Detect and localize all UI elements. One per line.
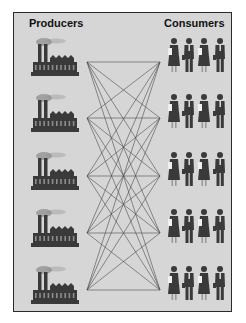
consumer-group-icon: [167, 93, 231, 133]
factory-icon: [24, 207, 84, 251]
factory-icon: [24, 264, 84, 308]
consumer-group-icon: [167, 208, 231, 248]
factory-icon: [24, 150, 84, 194]
consumer-group-icon: [167, 265, 231, 305]
consumer-group-icon: [167, 37, 231, 77]
factory-icon: [24, 36, 84, 80]
factory-icon: [24, 92, 84, 136]
consumer-group-icon: [167, 151, 231, 191]
